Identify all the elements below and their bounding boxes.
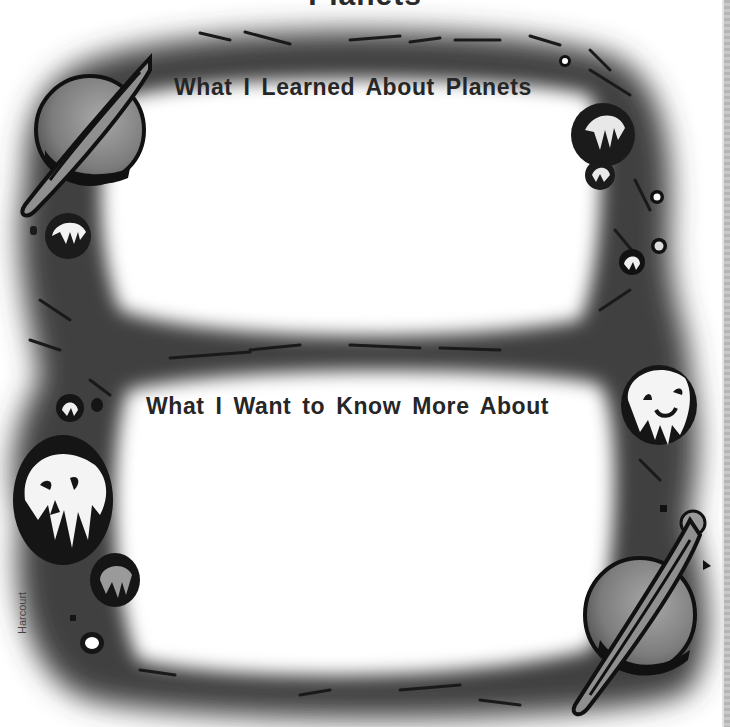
smiling-moon-right-icon (621, 365, 697, 445)
page-edge-strip (724, 0, 730, 727)
section-heading-want-to-know: What I Want to Know More About (146, 393, 549, 420)
writing-area-want-to-know[interactable] (130, 430, 580, 650)
publisher-credit: Harcourt (16, 592, 28, 634)
section-heading-learned: What I Learned About Planets (174, 74, 532, 101)
skull-face-moon-left-icon (13, 435, 113, 565)
writing-area-learned[interactable] (120, 110, 590, 320)
worksheet-page: Planets (0, 0, 730, 727)
